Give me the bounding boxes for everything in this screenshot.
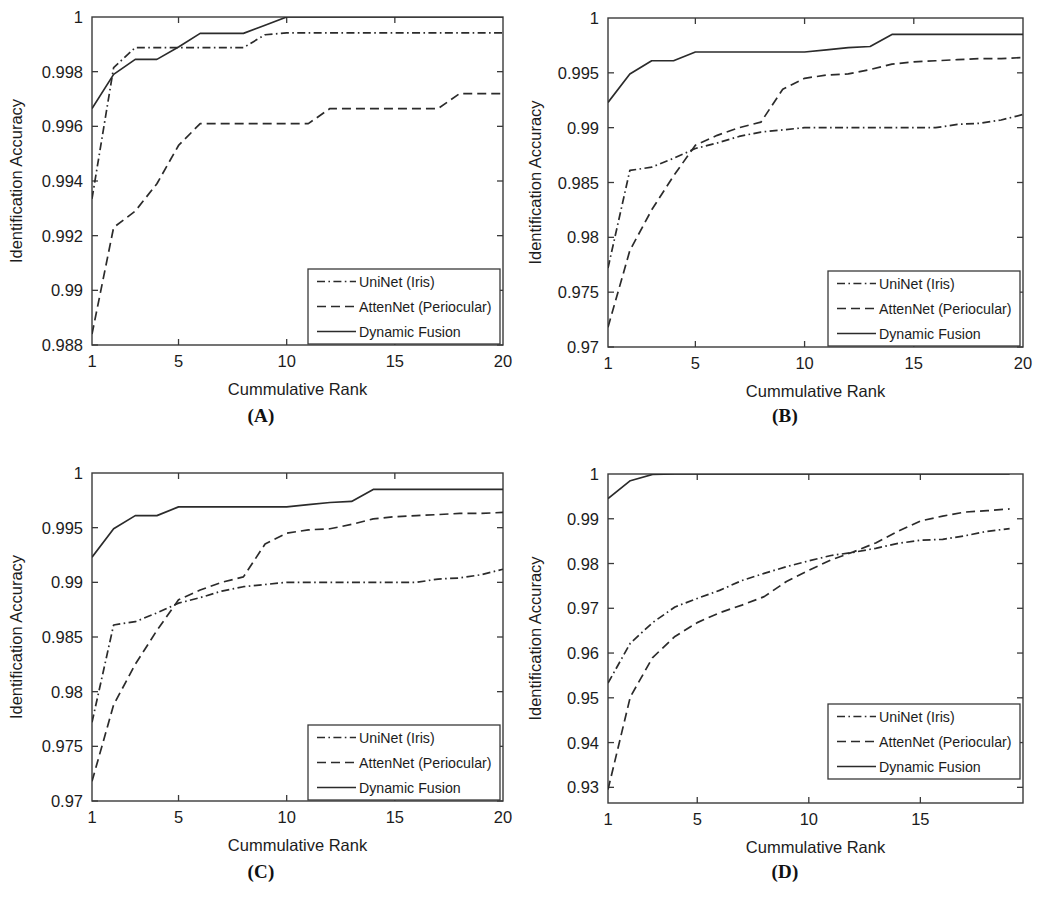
x-axis-title: Cummulative Rank [746, 382, 886, 400]
x-tick-label: 15 [905, 354, 923, 372]
series-line-dash-dot [92, 33, 503, 199]
legend-label: AttenNet (Periocular) [879, 734, 1011, 750]
y-axis-title: Identification Accuracy [526, 100, 544, 265]
x-tick-label: 5 [174, 352, 183, 370]
y-tick-label: 0.94 [567, 734, 599, 752]
series-line-solid [92, 17, 503, 109]
x-axis-title: Cummulative Rank [228, 380, 368, 398]
y-tick-label: 0.996 [42, 117, 83, 135]
y-tick-label: 0.99 [51, 281, 83, 299]
y-tick-label: 0.98 [51, 683, 83, 701]
y-tick-label: 1 [74, 8, 83, 26]
x-tick-label: 5 [693, 810, 702, 828]
y-tick-label: 0.98 [567, 555, 599, 573]
x-tick-label: 1 [87, 808, 96, 826]
y-tick-label: 0.985 [42, 628, 83, 646]
panel-c: 151015200.970.9750.980.9850.990.9951Cumm… [0, 456, 523, 856]
x-tick-label: 1 [87, 352, 96, 370]
panel-d: 1510150.930.940.950.960.970.980.991Cummu… [523, 456, 1045, 856]
y-axis-title: Identification Accuracy [7, 554, 25, 719]
x-tick-label: 15 [386, 808, 404, 826]
panel-b-plot: 151015200.970.9750.980.9850.990.9951Cumm… [523, 0, 1045, 400]
panel-c-plot: 151015200.970.9750.980.9850.990.9951Cumm… [0, 456, 523, 856]
x-tick-label: 1 [603, 354, 612, 372]
y-tick-label: 0.99 [567, 119, 599, 137]
legend-label: UniNet (Iris) [879, 276, 955, 292]
panel-b-caption: (B) [735, 405, 835, 427]
legend: UniNet (Iris)AttenNet (Periocular)Dynami… [308, 725, 500, 800]
legend-label: Dynamic Fusion [359, 324, 461, 340]
x-tick-label: 20 [494, 808, 512, 826]
y-tick-label: 0.96 [567, 644, 599, 662]
series-line-dash-dot [92, 569, 503, 722]
x-tick-label: 10 [800, 810, 818, 828]
series-line-solid [608, 34, 1023, 102]
series-line-dash-dot [608, 529, 1010, 683]
x-tick-label: 5 [174, 808, 183, 826]
x-tick-label: 20 [494, 352, 512, 370]
y-tick-label: 0.995 [558, 64, 599, 82]
y-tick-label: 0.97 [51, 792, 83, 810]
y-tick-label: 0.995 [42, 519, 83, 537]
x-tick-label: 10 [795, 354, 813, 372]
legend: UniNet (Iris)AttenNet (Periocular)Dynami… [308, 269, 500, 344]
panel-d-plot: 1510150.930.940.950.960.970.980.991Cummu… [523, 456, 1045, 856]
x-axis-title: Cummulative Rank [228, 836, 368, 854]
y-tick-label: 0.97 [567, 338, 599, 356]
y-axis-title: Identification Accuracy [526, 556, 544, 721]
y-tick-label: 0.975 [558, 283, 599, 301]
y-tick-label: 0.99 [51, 573, 83, 591]
y-tick-label: 1 [74, 464, 83, 482]
y-tick-label: 0.99 [567, 510, 599, 528]
y-tick-label: 1 [590, 465, 599, 483]
y-tick-label: 0.98 [567, 228, 599, 246]
y-tick-label: 0.93 [567, 778, 599, 796]
panel-d-caption: (D) [735, 861, 835, 883]
x-tick-label: 1 [603, 810, 612, 828]
panel-a-caption: (A) [211, 405, 311, 427]
legend-label: Dynamic Fusion [879, 759, 981, 775]
x-tick-label: 10 [278, 352, 296, 370]
y-tick-label: 0.994 [42, 172, 83, 190]
y-tick-label: 0.95 [567, 689, 599, 707]
y-tick-label: 0.985 [558, 174, 599, 192]
panel-b: 151015200.970.9750.980.9850.990.9951Cumm… [523, 0, 1045, 400]
legend-label: AttenNet (Periocular) [879, 301, 1011, 317]
y-tick-label: 0.992 [42, 227, 83, 245]
x-axis-title: Cummulative Rank [746, 838, 886, 856]
legend-label: UniNet (Iris) [879, 709, 955, 725]
series-line-dash-dot [608, 115, 1023, 269]
legend-label: AttenNet (Periocular) [359, 299, 491, 315]
x-tick-label: 20 [1014, 354, 1032, 372]
x-tick-label: 15 [386, 352, 404, 370]
legend: UniNet (Iris)AttenNet (Periocular)Dynami… [828, 271, 1020, 346]
y-tick-label: 0.998 [42, 63, 83, 81]
legend-label: Dynamic Fusion [359, 780, 461, 796]
legend-label: AttenNet (Periocular) [359, 755, 491, 771]
panel-a-plot: 151015200.9880.990.9920.9940.9960.9981Cu… [0, 0, 523, 400]
panel-a: 151015200.9880.990.9920.9940.9960.9981Cu… [0, 0, 523, 400]
series-line-solid [92, 489, 503, 557]
y-axis-title: Identification Accuracy [7, 98, 25, 263]
legend-label: Dynamic Fusion [879, 326, 981, 342]
legend: UniNet (Iris)AttenNet (Periocular)Dynami… [828, 704, 1020, 779]
panel-c-caption: (C) [211, 861, 311, 883]
y-tick-label: 1 [590, 9, 599, 27]
legend-label: UniNet (Iris) [359, 274, 435, 290]
y-tick-label: 0.988 [42, 336, 83, 354]
figure-cmc-curves: 151015200.9880.990.9920.9940.9960.9981Cu… [0, 0, 1045, 911]
legend-label: UniNet (Iris) [359, 730, 435, 746]
x-tick-label: 10 [278, 808, 296, 826]
y-tick-label: 0.975 [42, 737, 83, 755]
x-tick-label: 15 [911, 810, 929, 828]
y-tick-label: 0.97 [567, 599, 599, 617]
x-tick-label: 5 [691, 354, 700, 372]
